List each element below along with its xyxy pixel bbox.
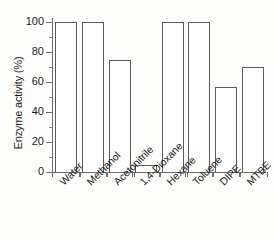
bar [188, 22, 210, 172]
y-tick-mark [46, 52, 52, 53]
bar [242, 67, 264, 172]
y-tick-mark [46, 112, 52, 113]
y-tick-mark [46, 82, 52, 83]
y-tick-label: 40 [4, 105, 44, 117]
y-tick-mark [46, 22, 52, 23]
y-tick-label: 0 [4, 165, 44, 177]
bar [82, 22, 104, 172]
y-minor-tick-mark [49, 37, 52, 38]
bar [55, 22, 77, 172]
y-minor-tick-mark [49, 97, 52, 98]
x-tick-mark [52, 172, 53, 177]
y-minor-tick-mark [49, 67, 52, 68]
y-tick-label: 100 [4, 15, 44, 27]
bar-chart-figure: Enzyme activity (%) 020406080100 WaterMe… [0, 0, 276, 239]
y-minor-tick-mark [49, 127, 52, 128]
y-tick-mark [46, 142, 52, 143]
y-axis-line [52, 18, 53, 173]
y-tick-label: 80 [4, 45, 44, 57]
y-tick-label: 60 [4, 75, 44, 87]
y-minor-tick-mark [49, 157, 52, 158]
y-tick-label: 20 [4, 135, 44, 147]
